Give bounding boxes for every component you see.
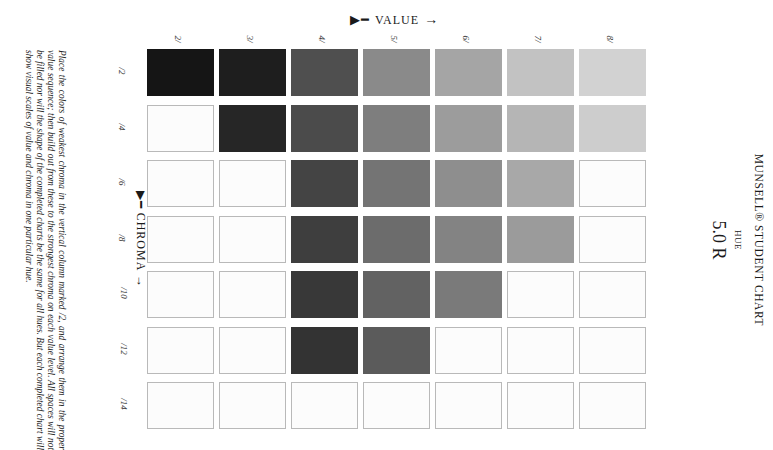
empty-chip-slot[interactable] <box>579 216 646 263</box>
color-chip[interactable] <box>507 105 574 152</box>
color-chip[interactable] <box>507 216 574 263</box>
chroma-label: /12 <box>119 343 129 355</box>
empty-chip-slot[interactable] <box>507 382 574 429</box>
empty-chip-slot[interactable] <box>435 382 502 429</box>
empty-chip-slot[interactable] <box>147 216 214 263</box>
value-label: 4/ <box>317 35 327 42</box>
color-chip[interactable] <box>579 105 646 152</box>
color-chip[interactable] <box>435 271 502 318</box>
chroma-label: /6 <box>117 178 127 185</box>
color-chip[interactable] <box>147 49 214 96</box>
instructions-text: Place the colors of weakest chroma in th… <box>23 50 67 450</box>
color-chip[interactable] <box>291 216 358 263</box>
color-chip[interactable] <box>363 271 430 318</box>
empty-chip-slot[interactable] <box>219 382 286 429</box>
empty-chip-slot[interactable] <box>507 327 574 374</box>
hue-label: HUE <box>733 115 743 365</box>
value-axis-header: ▶━ VALUE → <box>350 12 439 28</box>
empty-chip-slot[interactable] <box>147 160 214 207</box>
chroma-label: /14 <box>119 398 129 410</box>
color-chip[interactable] <box>435 216 502 263</box>
empty-chip-slot[interactable] <box>435 327 502 374</box>
color-chip[interactable] <box>363 216 430 263</box>
empty-chip-slot[interactable] <box>291 382 358 429</box>
color-chip[interactable] <box>435 160 502 207</box>
chroma-label: /8 <box>117 234 127 241</box>
empty-chip-slot[interactable] <box>147 105 214 152</box>
color-chip[interactable] <box>507 160 574 207</box>
color-chip[interactable] <box>363 160 430 207</box>
empty-chip-slot[interactable] <box>579 160 646 207</box>
empty-chip-slot[interactable] <box>507 271 574 318</box>
value-label: 5/ <box>389 35 399 42</box>
arrow-right-icon: → <box>424 12 439 28</box>
empty-chip-slot[interactable] <box>219 327 286 374</box>
color-chip[interactable] <box>363 49 430 96</box>
value-label: 3/ <box>245 35 255 42</box>
color-chip[interactable] <box>291 271 358 318</box>
empty-chip-slot[interactable] <box>219 160 286 207</box>
color-chip[interactable] <box>579 49 646 96</box>
value-label: 2/ <box>173 35 183 42</box>
hue-value: 5.0 R <box>708 115 729 365</box>
value-axis-label: VALUE <box>375 13 419 28</box>
chroma-label: /10 <box>119 287 129 299</box>
color-chip[interactable] <box>507 49 574 96</box>
color-chip[interactable] <box>291 327 358 374</box>
arrow-feather-icon: ▶━ <box>350 12 370 28</box>
chroma-label: /4 <box>117 123 127 130</box>
empty-chip-slot[interactable] <box>579 327 646 374</box>
value-label: 8/ <box>605 35 615 42</box>
color-chip[interactable] <box>219 49 286 96</box>
color-chip[interactable] <box>363 105 430 152</box>
empty-chip-slot[interactable] <box>579 382 646 429</box>
chroma-label: /2 <box>117 67 127 74</box>
color-chip[interactable] <box>291 105 358 152</box>
color-chip[interactable] <box>363 327 430 374</box>
chart-title: MUNSELL® STUDENT CHART <box>753 115 765 365</box>
empty-chip-slot[interactable] <box>147 271 214 318</box>
empty-chip-slot[interactable] <box>363 382 430 429</box>
value-label: 6/ <box>461 35 471 42</box>
color-chip[interactable] <box>291 49 358 96</box>
empty-chip-slot[interactable] <box>219 216 286 263</box>
color-chip[interactable] <box>435 49 502 96</box>
color-chip[interactable] <box>219 105 286 152</box>
color-chip[interactable] <box>435 105 502 152</box>
empty-chip-slot[interactable] <box>147 327 214 374</box>
empty-chip-slot[interactable] <box>579 271 646 318</box>
title-block: MUNSELL® STUDENT CHART HUE 5.0 R <box>705 115 765 365</box>
value-label: 7/ <box>533 35 543 42</box>
color-chip[interactable] <box>291 160 358 207</box>
empty-chip-slot[interactable] <box>147 382 214 429</box>
empty-chip-slot[interactable] <box>219 271 286 318</box>
